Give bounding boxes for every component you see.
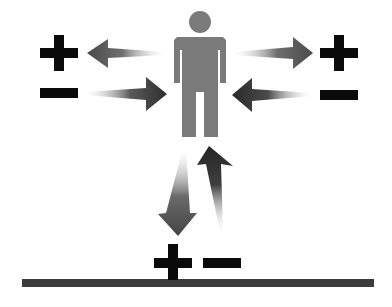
right-plus-symbol [320,35,358,71]
bottom-plus-symbol [154,244,192,280]
bottom-minus-symbol [203,258,241,268]
arrow-right-minus-to-person [232,78,312,112]
arrow-person-to-right-plus [233,37,313,69]
left-plus-symbol [40,35,78,71]
left-minus-symbol [40,88,78,98]
person-icon [174,11,226,137]
arrow-left-minus-to-person [85,77,167,111]
diagram-canvas [0,0,392,307]
arrow-person-to-ground [158,148,197,236]
arrow-ground-to-person [197,146,233,232]
arrow-person-to-left-plus [87,39,165,68]
right-minus-symbol [320,90,358,100]
ground-line [22,279,374,287]
